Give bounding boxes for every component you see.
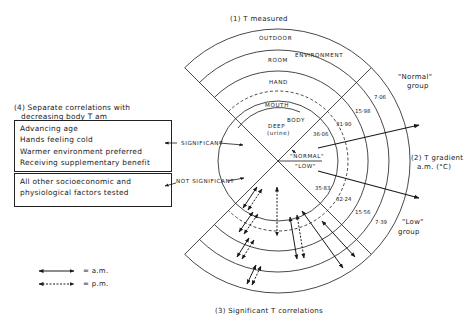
am-correlation-arrow [239, 212, 253, 232]
legend [39, 271, 74, 284]
body-label: BODY [287, 117, 305, 123]
normal-group-label: "Normal" [398, 73, 432, 81]
temperature-ring-diagram: (1) T measured OUTDOOR ROOM ENVIRONMENT … [0, 0, 468, 316]
rings [185, 29, 410, 293]
not-significant-label: NOT SIGNIFICANT [176, 178, 234, 184]
normal-group-label-2: group [407, 82, 429, 90]
gradient-low-body: 35·83 [315, 185, 330, 191]
significant-correlations-title: (3) Significant T correlations [215, 307, 323, 315]
sector-line-lower-right [278, 161, 371, 254]
gradient-normal-room: 7·06 [374, 94, 387, 100]
not-significant-left-arrow [165, 183, 176, 186]
legend-pm-label: = p.m. [83, 280, 109, 288]
pm-correlation-arrow [242, 240, 254, 259]
urine-label: (urine) [267, 130, 290, 136]
mouth-label: MOUTH [265, 102, 289, 108]
environment-label: ENVIRONMENT [295, 52, 343, 58]
gradient-normal-mouth: 31·90 [336, 121, 352, 127]
pm-correlation-arrow [248, 189, 262, 210]
gradient-normal-body: 36·06 [313, 131, 329, 137]
gradient-normal-hand: 15·98 [355, 108, 371, 114]
significant-label: SIGNIFICANT [181, 140, 223, 146]
pm-correlation-arrow [297, 215, 304, 258]
t-gradient-unit: a.m. (°C) [417, 163, 451, 171]
sector-line-upper-left [185, 68, 278, 161]
am-correlation-arrow [243, 187, 257, 208]
gradient-low-room: 7·39 [375, 219, 388, 225]
gradient-low-mouth: 32·24 [336, 196, 352, 202]
normal-inner-label: "NORMAL" [290, 153, 324, 159]
am-correlation-arrow [290, 217, 297, 259]
room-label: ROOM [268, 57, 288, 63]
am-correlation-arrow [322, 221, 355, 257]
t-gradient-title: (2) T gradient [411, 154, 463, 162]
low-inner-label: "LOW" [295, 163, 316, 169]
gradient-arrows [292, 125, 419, 198]
am-correlation-arrow [237, 238, 249, 257]
t-measured-title: (1) T measured [230, 15, 288, 23]
outdoor-label: OUTDOOR [259, 35, 292, 41]
gradient-low-hand: 15·56 [355, 209, 371, 215]
low-group-label-2: group [398, 228, 420, 236]
deep-label: DEEP [268, 123, 285, 129]
low-group-label: "Low" [402, 218, 424, 226]
hand-label: HAND [269, 79, 288, 85]
sector-line-lower-left [185, 161, 278, 254]
legend-am-label: = a.m. [83, 267, 108, 275]
